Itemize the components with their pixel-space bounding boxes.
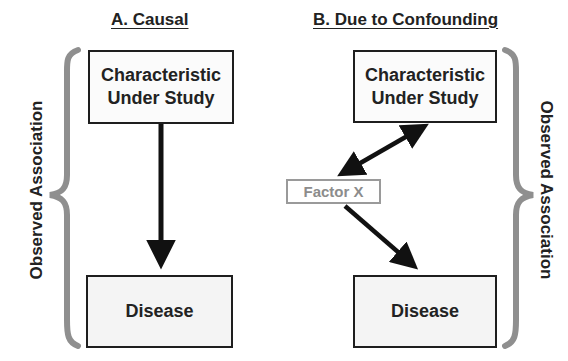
confounding-characteristic-line1: Characteristic [365,64,485,87]
confounding-characteristic-box: Characteristic Under Study [353,50,497,123]
right-brace-label: Observed Association [536,101,556,280]
causal-characteristic-line2: Under Study [101,87,221,110]
confounding-disease-box: Disease [353,275,497,348]
factor-x-box: Factor X [286,179,381,204]
left-brace-label: Observed Association [27,101,47,280]
factor-to-characteristic-arrow [343,127,423,173]
confounding-characteristic-line2: Under Study [365,87,485,110]
factor-to-disease-arrow [345,206,413,265]
causal-characteristic-line1: Characteristic [101,64,221,87]
panel-b-title: B. Due to Confounding [313,10,498,30]
right-brace [505,50,533,346]
causal-characteristic-box: Characteristic Under Study [88,50,234,124]
left-brace [50,50,78,346]
causal-disease-box: Disease [86,275,233,348]
panel-a-title: A. Causal [111,10,188,30]
